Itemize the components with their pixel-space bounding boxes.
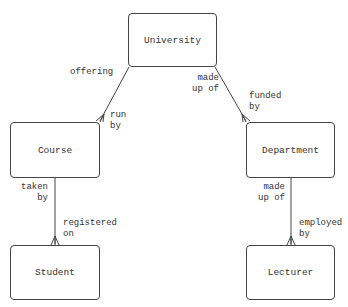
- label-offering: offering: [70, 67, 113, 78]
- entity-label: Department: [262, 145, 319, 156]
- entity-label: University: [144, 35, 201, 46]
- label-run-by: run by: [110, 110, 126, 132]
- entity-student: Student: [10, 245, 100, 300]
- entity-lecturer: Lecturer: [246, 245, 335, 300]
- label-employed-by: employed by: [299, 218, 342, 240]
- entity-department: Department: [246, 122, 335, 178]
- label-registered-on: registered on: [63, 218, 117, 240]
- crows-foot-icon: [51, 236, 59, 245]
- label-funded-by: funded by: [249, 91, 281, 113]
- entity-university: University: [128, 13, 217, 67]
- entity-label: Lecturer: [268, 267, 314, 278]
- entity-label: Student: [35, 267, 75, 278]
- link-university-department: [215, 67, 246, 121]
- crows-foot-icon: [287, 236, 295, 245]
- label-made-up-of-university: made up of: [192, 73, 219, 95]
- label-made-up-of-department: made up of: [258, 182, 285, 204]
- entity-course: Course: [10, 122, 100, 178]
- label-taken-by: taken by: [21, 182, 48, 204]
- entity-label: Course: [38, 145, 72, 156]
